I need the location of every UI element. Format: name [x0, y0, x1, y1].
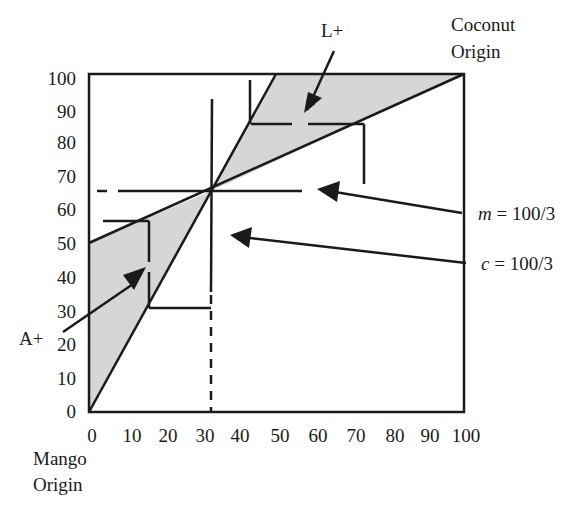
svg-text:Mango: Mango [33, 448, 87, 469]
svg-text:90: 90 [57, 101, 76, 122]
c-arrowhead-icon [230, 227, 252, 248]
svg-text:70: 70 [57, 166, 76, 187]
svg-text:40: 40 [57, 267, 76, 288]
svg-text:90: 90 [421, 425, 440, 446]
svg-text:50: 50 [271, 425, 290, 446]
svg-text:100: 100 [48, 68, 77, 89]
c-annotation-label: c = 100/3 [481, 253, 553, 274]
svg-text:70: 70 [347, 425, 366, 446]
m-arrow [335, 192, 462, 213]
svg-text:30: 30 [196, 425, 215, 446]
y-axis-ticks: 0 10 20 30 40 50 60 70 80 90 100 [48, 68, 77, 422]
l-plus-label: L+ [321, 20, 343, 41]
svg-text:10: 10 [123, 425, 142, 446]
a-plus-label: A+ [19, 328, 43, 349]
mango-origin-label: Mango Origin [33, 448, 87, 495]
svg-text:80: 80 [57, 132, 76, 153]
c-arrow [250, 238, 466, 263]
svg-text:100: 100 [452, 425, 481, 446]
svg-text:Coconut: Coconut [451, 14, 516, 35]
svg-text:0: 0 [87, 425, 97, 446]
svg-text:60: 60 [309, 425, 328, 446]
m-annotation-label: m = 100/3 [478, 203, 555, 224]
svg-text:0: 0 [67, 401, 77, 422]
svg-text:80: 80 [386, 425, 405, 446]
edgeworth-box-diagram: 0 10 20 30 40 50 60 70 80 90 100 0 10 20… [0, 0, 574, 513]
svg-text:Origin: Origin [33, 474, 83, 495]
coconut-origin-label: Coconut Origin [451, 14, 516, 62]
svg-text:60: 60 [57, 199, 76, 220]
svg-text:20: 20 [57, 334, 76, 355]
svg-text:50: 50 [57, 233, 76, 254]
svg-text:30: 30 [57, 301, 76, 322]
svg-text:Origin: Origin [451, 41, 501, 62]
c-vertical-line [211, 99, 212, 412]
x-axis-ticks: 0 10 20 30 40 50 60 70 80 90 100 [87, 425, 480, 446]
svg-text:20: 20 [159, 425, 178, 446]
svg-text:40: 40 [231, 425, 250, 446]
svg-text:10: 10 [57, 368, 76, 389]
m-arrowhead-icon [317, 181, 340, 202]
